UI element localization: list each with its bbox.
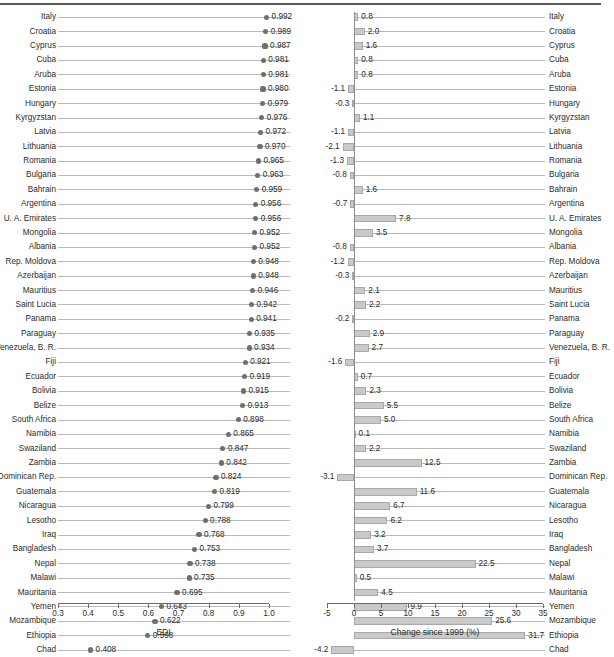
edi-data-point [187,575,192,580]
edi-data-point [256,158,261,163]
edi-x-tick-label: 0.8 [203,609,214,618]
change-data-label: 6.7 [393,499,404,513]
change-category-label: Cyprus [549,39,614,53]
change-row: -1.1Estonia [300,82,601,96]
edi-gridline [58,535,290,536]
change-data-label: -1.6 [328,355,342,369]
edi-row: Albania0.952 [0,240,300,254]
edi-data-point [249,302,254,307]
edi-x-tick-label: 1.0 [263,609,274,618]
edi-category-label: Nepal [0,557,56,571]
edi-category-label: Cyprus [0,39,56,53]
change-gridline [354,17,545,18]
change-category-label: Fiji [549,355,614,369]
edi-gridline [58,89,290,90]
change-gridline [354,391,545,392]
edi-data-label: 0.921 [250,355,271,369]
edi-data-point [236,417,241,422]
edi-gridline [58,448,290,449]
edi-category-label: Bulgaria [0,168,56,182]
change-row: 2.3Bolivia [300,384,601,398]
edi-data-point [263,29,268,34]
edi-category-label: Cuba [0,53,56,67]
edi-row: Azerbaijan0.948 [0,269,300,283]
change-bar [343,143,354,151]
edi-row: Venezuela, B. R.0.934 [0,341,300,355]
change-gridline [354,319,545,320]
edi-data-label: 0.913 [248,399,269,413]
change-data-label: 2.0 [368,25,379,39]
change-bar [354,301,366,309]
change-data-label: -1.3 [330,154,344,168]
change-row: 1.6Cyprus [300,39,601,53]
change-row: -0.8Albania [300,240,601,254]
change-bar [354,531,371,539]
change-category-label: Namibia [549,427,614,441]
change-row: 1.6Bahrain [300,183,601,197]
change-gridline [354,650,545,651]
edi-data-label: 0.934 [254,341,275,355]
edi-row: Namibia0.865 [0,427,300,441]
edi-data-label: 0.919 [250,370,271,384]
change-category-label: Iraq [549,528,614,542]
change-x-tick-label: 30 [511,609,520,618]
change-gridline [354,146,545,147]
change-bar [354,215,396,223]
edi-data-label: 0.946 [258,284,279,298]
edi-category-label: Bahrain [0,183,56,197]
edi-category-label: Italy [0,10,56,24]
change-category-label: Mongolia [549,226,614,240]
change-bar [354,186,363,194]
change-bar [354,416,381,424]
change-category-label: South Africa [549,413,614,427]
edi-data-point [242,374,247,379]
edi-row: Swaziland0.847 [0,442,300,456]
change-zero-baseline [354,12,355,601]
edi-data-label: 0.941 [256,312,277,326]
change-data-label: 31.7 [528,629,544,643]
change-bar [354,589,378,597]
change-data-label: 0.8 [361,68,372,82]
change-row: 4.5Mauritania [300,586,601,600]
edi-data-point [253,202,258,207]
edi-category-label: Aruba [0,68,56,82]
change-data-label: -0.3 [335,97,349,111]
change-category-label: Saint Lucia [549,298,614,312]
edi-data-label: 0.956 [261,197,282,211]
edi-row: Guatemala0.819 [0,485,300,499]
edi-row: Nepal0.738 [0,557,300,571]
edi-data-label: 0.915 [248,384,269,398]
change-gridline [354,60,545,61]
change-row: -1.1Latvia [300,125,601,139]
change-x-tick [489,604,490,608]
edi-x-tick [239,604,240,608]
edi-category-label: Swaziland [0,442,56,456]
change-row: 5.0South Africa [300,413,601,427]
change-gridline [354,74,545,75]
change-bar [354,330,370,338]
change-category-label: Argentina [549,197,614,211]
edi-row: Belize0.913 [0,399,300,413]
change-row: -1.2Rep. Moldova [300,255,601,269]
edi-gridline [58,17,290,18]
change-data-label: 0.1 [359,427,370,441]
change-row: 3.5Mongolia [300,226,601,240]
change-row: -4.2Chad [300,643,601,657]
change-bar [337,474,354,482]
change-bar [354,42,363,50]
change-row: 2.0Croatia [300,25,601,39]
edi-gridline [58,132,290,133]
change-category-label: Panama [549,312,614,326]
change-row: -0.2Panama [300,312,601,326]
change-data-label: 0.7 [361,370,372,384]
change-category-label: Chad [549,643,614,657]
change-row: 0.8Cuba [300,53,601,67]
change-gridline [354,434,545,435]
edi-data-label: 0.942 [257,298,278,312]
change-gridline [354,420,545,421]
edi-x-tick-label: 0.9 [233,609,244,618]
change-category-label: Aruba [549,68,614,82]
edi-row: Chad0.408 [0,643,300,657]
change-row: 12.5Zambia [300,456,601,470]
edi-row: Zambia0.842 [0,456,300,470]
